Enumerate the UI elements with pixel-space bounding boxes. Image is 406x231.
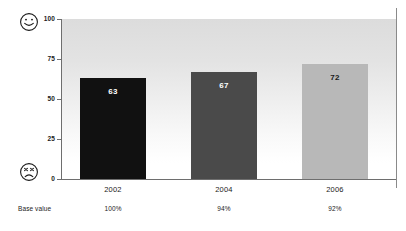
base-value-2002: 100% <box>80 205 146 212</box>
x-category-label-2002: 2002 <box>80 185 146 194</box>
x-axis-line <box>61 179 396 180</box>
base-value-2006: 92% <box>302 205 368 212</box>
y-tick-mark-0 <box>57 179 62 180</box>
x-category-label-2004: 2004 <box>191 185 257 194</box>
y-tick-label-25: 25 <box>29 135 55 142</box>
bar-value-label-2004: 67 <box>191 81 257 90</box>
y-tick-label-75-wrap: 75 <box>26 55 55 63</box>
bar-2002[interactable]: 63 <box>80 78 146 179</box>
base-value-2004: 94% <box>191 205 257 212</box>
y-tick-label-25-wrap: 25 <box>26 135 55 143</box>
smiley-face-icon <box>19 12 39 32</box>
y-tick-label-50-wrap: 50 <box>26 95 55 103</box>
y-tick-label-75: 75 <box>29 55 55 62</box>
x-category-label-2006: 2006 <box>302 185 368 194</box>
bar-2004[interactable]: 67 <box>191 72 257 179</box>
y-tick-label-50: 50 <box>29 95 55 102</box>
frowning-face-icon <box>19 162 39 182</box>
bars-layer: 63 67 72 <box>62 19 396 179</box>
base-value-row-label: Base value <box>18 205 51 212</box>
bar-2006[interactable]: 72 <box>302 64 368 179</box>
chart-frame-right-border <box>396 8 397 188</box>
bar-value-label-2006: 72 <box>302 73 368 82</box>
bar-chart-screenshot: 100 75 50 25 0 63 67 72 2002 2004 2006 B… <box>0 0 406 231</box>
bar-value-label-2002: 63 <box>80 87 146 96</box>
